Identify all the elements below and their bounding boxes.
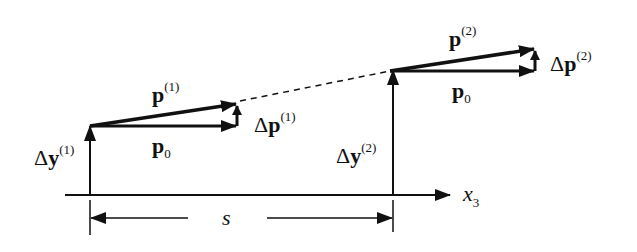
distance-label: s [222, 205, 231, 230]
delta-p2-label: Δp(2) [550, 48, 592, 76]
vector-diagram: p(1) p0 Δp(1) Δy(1) p(2) p0 Δp(2) Δy(2) … [0, 0, 637, 252]
p0-label-left: p0 [152, 133, 171, 161]
dashed-trajectory [240, 71, 390, 101]
p2-label: p(2) [449, 23, 476, 51]
x3-axis-label: x3 [462, 181, 479, 210]
delta-p1-label: Δp(1) [254, 109, 296, 137]
p1-vector [90, 104, 236, 126]
p0-label-right: p0 [452, 78, 471, 106]
p2-vector [390, 49, 534, 71]
delta-y1-label: Δy(1) [34, 142, 74, 170]
p1-label: p(1) [152, 79, 179, 107]
delta-y2-label: Δy(2) [336, 140, 376, 168]
